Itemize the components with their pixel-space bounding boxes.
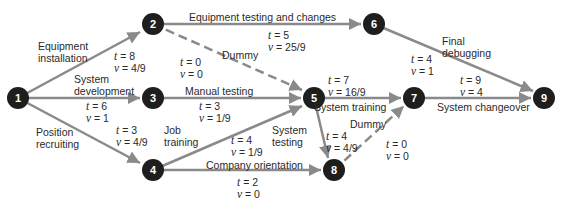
v-value-4-5: v = 1/9 [231, 146, 263, 158]
t-value-5-7: t = 7 [328, 74, 349, 86]
v-value-7-9: v = 4 [460, 86, 483, 98]
node-7-label: 7 [403, 87, 425, 109]
node-9-label: 9 [533, 87, 555, 109]
node-8-label: 8 [323, 159, 345, 181]
label-system-testing-2: testing [272, 136, 303, 148]
v-value-5-7: v = 16/9 [328, 86, 366, 98]
t-value-6-9: t = 4 [411, 53, 432, 65]
label-final-debugging-1: Final [442, 35, 465, 47]
label-system-training: System training [314, 101, 386, 113]
t-value-2-5: t = 0 [180, 56, 201, 68]
label-system-development-2: development [74, 85, 134, 97]
label-job-training-1: Job [164, 124, 181, 136]
node-4-label: 4 [142, 159, 164, 181]
node-2-label: 2 [142, 13, 164, 35]
node-6-label: 6 [363, 13, 385, 35]
t-value-1-3: t = 6 [86, 100, 107, 112]
node-1-label: 1 [7, 87, 29, 109]
node-3-label: 3 [142, 87, 164, 109]
label-company-orientation: Company orientation [206, 159, 303, 171]
v-value-5-8: v = 4/9 [326, 142, 358, 154]
v-value-6-9: v = 1 [411, 65, 434, 77]
t-value-8-7: t = 0 [386, 138, 407, 150]
label-position-recruiting-1: Position [36, 126, 73, 138]
label-manual-testing: Manual testing [185, 85, 253, 97]
label-equipment-testing: Equipment testing and changes [189, 11, 336, 23]
t-value-4-8: t = 2 [237, 176, 258, 188]
v-value-8-7: v = 0 [386, 150, 409, 162]
t-value-4-5: t = 4 [231, 134, 252, 146]
t-value-1-4: t = 3 [116, 124, 137, 136]
v-value-1-4: v = 4/9 [116, 136, 148, 148]
t-value-2-6: t = 5 [268, 29, 289, 41]
v-value-1-3: v = 1 [86, 112, 109, 124]
label-system-changeover: System changeover [437, 101, 530, 113]
label-equipment-installation-1: Equipment [38, 40, 88, 52]
label-dummy-2-5: Dummy [222, 49, 258, 61]
v-value-1-2: v = 4/9 [114, 62, 146, 74]
label-system-testing-1: System [272, 124, 307, 136]
t-value-7-9: t = 9 [460, 74, 481, 86]
v-value-4-8: v = 0 [237, 188, 260, 200]
label-equipment-installation-2: installation [38, 52, 88, 64]
label-position-recruiting-2: recruiting [36, 138, 79, 150]
t-value-1-2: t = 8 [114, 50, 135, 62]
v-value-2-6: v = 25/9 [268, 41, 306, 53]
v-value-2-5: v = 0 [180, 68, 203, 80]
label-final-debugging-2: debugging [442, 47, 491, 59]
label-system-development-1: System [74, 73, 109, 85]
t-value-5-8: t = 4 [326, 130, 347, 142]
label-dummy-8-7: Dummy [350, 118, 386, 130]
v-value-3-5: v = 1/9 [199, 112, 231, 124]
t-value-3-5: t = 3 [199, 100, 220, 112]
label-job-training-2: training [164, 136, 198, 148]
